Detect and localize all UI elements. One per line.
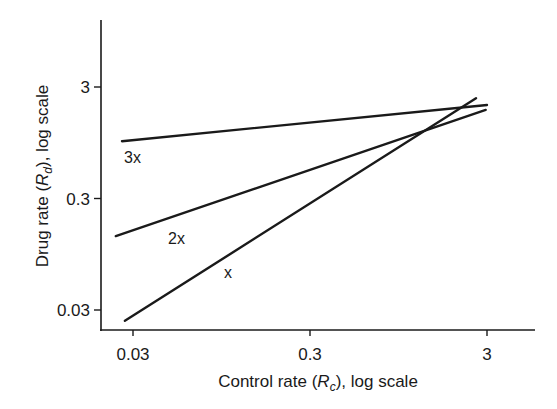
x-tick-label: 3 [482, 345, 491, 364]
series-label-3x: 3x [124, 149, 141, 166]
x-tick-label: 0.3 [298, 345, 322, 364]
series-label-2x: 2x [168, 230, 185, 247]
x-ticks: 0.030.33 [116, 330, 491, 364]
series-lines: 3x2xx [116, 98, 487, 321]
y-tick-label: 3 [81, 78, 90, 97]
chart: 0.030.33 0.030.33 3x2xx Control rate (Rc… [0, 0, 557, 409]
series-label-x: x [224, 264, 232, 281]
series-line-2x [116, 110, 486, 236]
series-line-x [125, 98, 476, 321]
y-tick-label: 0.03 [57, 301, 90, 320]
y-tick-label: 0.3 [66, 190, 90, 209]
x-axis-title: Control rate (Rc), log scale [218, 372, 418, 394]
y-axis-title: Drug rate (Rd), log scale [33, 85, 55, 267]
x-tick-label: 0.03 [116, 345, 149, 364]
series-line-3x [122, 105, 487, 141]
y-ticks: 0.030.33 [57, 78, 101, 320]
